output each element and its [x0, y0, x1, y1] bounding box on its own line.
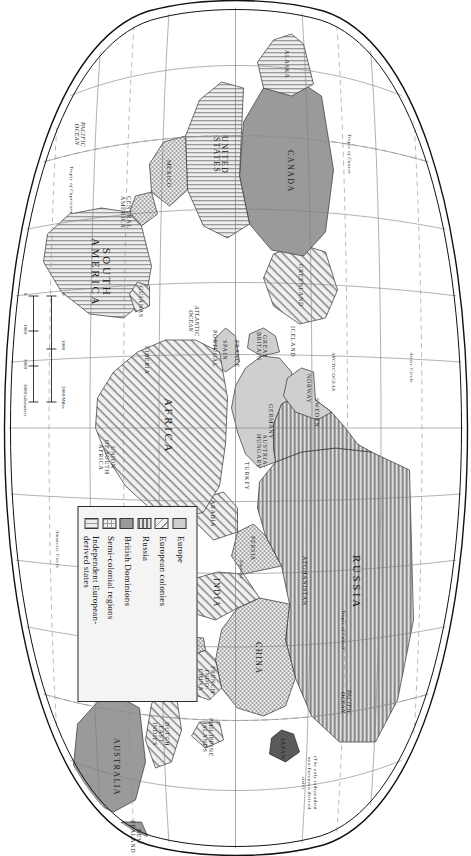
- legend-label-independent-european-derived-states: Independent European- derived states: [81, 536, 100, 624]
- legend-row: European colonies: [154, 518, 170, 691]
- landmass-great-britain: [247, 328, 279, 356]
- legend-label-europe: Europe: [174, 536, 183, 563]
- landmass-alaska: [257, 34, 313, 96]
- legend-row: Semi-colonial regions: [101, 518, 117, 691]
- landmass-greenland: [263, 244, 337, 324]
- graticule-layer: [8, 4, 463, 852]
- legend-swatch-european-colonies: [155, 518, 169, 529]
- landmass-canada: [239, 76, 333, 256]
- legend-swatch-russia: [137, 518, 151, 529]
- legend-row: British Dominions: [119, 518, 135, 691]
- map-figure: RUSSIA CHINA INDIA AFRICA SOUTH AMERICA …: [0, 0, 471, 856]
- legend-row: Europe: [171, 518, 187, 691]
- legend-swatch-semi-colonial-regions: [102, 518, 116, 529]
- landmass-mexico: [149, 136, 187, 206]
- world-map: RUSSIA CHINA INDIA AFRICA SOUTH AMERICA …: [0, 0, 471, 856]
- legend-swatch-europe: [172, 518, 186, 529]
- legend-label-russia: Russia: [139, 536, 148, 561]
- legend-label-semi-colonial-regions: Semi-colonial regions: [104, 536, 113, 619]
- landmass-australia: [73, 698, 145, 812]
- legend-swatch-independent-european-derived-states: [85, 518, 99, 529]
- landmass-layer: [0, 0, 471, 856]
- map-legend: Europe European colonies Russia British …: [77, 506, 197, 702]
- legend-label-european-colonies: European colonies: [157, 536, 166, 606]
- landmass-japan: [269, 730, 299, 762]
- landmass-china: [215, 598, 295, 716]
- legend-swatch-british-dominions: [120, 518, 134, 529]
- scale-km-tick-2: 2000: [22, 359, 27, 369]
- legend-row: Russia: [136, 518, 152, 691]
- landmass-united-states: [185, 82, 249, 238]
- legend-label-british-dominions: British Dominions: [122, 536, 131, 606]
- landmass-africa: [95, 340, 227, 520]
- scale-km-tick-3: 3000 kilometers: [22, 384, 27, 416]
- scale-miles-tick-0: 0: [60, 293, 65, 296]
- scale-miles-tick-1: 1000: [60, 340, 65, 350]
- rotated-map-container: RUSSIA CHINA INDIA AFRICA SOUTH AMERICA …: [0, 0, 471, 856]
- scale-km-tick-1: 1000: [22, 324, 27, 334]
- scale-bar: 0 1000 2000 Miles 0 1000 2000 3000 kilom…: [21, 292, 67, 410]
- legend-row: Independent European- derived states: [76, 518, 100, 691]
- scale-km-tick-0: 0: [22, 293, 27, 296]
- landmass-new-zealand: [113, 822, 147, 844]
- landmass-philippines: [191, 722, 223, 748]
- scale-miles-tick-2: 2000 Miles: [60, 386, 65, 409]
